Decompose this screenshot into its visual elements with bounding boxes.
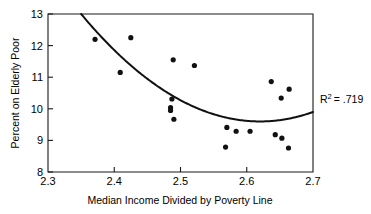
data-point — [169, 96, 174, 101]
x-tick-label: 2.4 — [107, 175, 122, 187]
data-point — [279, 95, 284, 100]
y-tick-label: 9 — [37, 134, 43, 146]
data-point — [118, 70, 123, 75]
data-point — [171, 57, 176, 62]
data-points — [92, 35, 291, 150]
svg-text:R2= .719: R2= .719 — [320, 92, 363, 105]
chart-figure: 8910111213 2.32.42.52.62.7 Percent on El… — [0, 0, 371, 214]
data-point — [92, 37, 97, 42]
y-tick-label: 10 — [31, 103, 43, 115]
data-point — [234, 129, 239, 134]
scatter-plot: 8910111213 2.32.42.52.62.7 Percent on El… — [0, 0, 371, 214]
data-point — [128, 35, 133, 40]
x-axis-title: Median Income Divided by Poverty Line — [87, 194, 272, 206]
y-tick-label: 12 — [31, 40, 43, 52]
y-axis-tick-labels: 8910111213 — [31, 8, 43, 178]
y-axis-ticks — [48, 14, 53, 172]
y-tick-label: 11 — [32, 71, 43, 83]
x-tick-label: 2.7 — [305, 175, 320, 187]
y-axis-title: Percent on Elderly Poor — [9, 37, 21, 148]
data-point — [273, 132, 278, 137]
y-tick-label: 13 — [31, 8, 43, 20]
x-tick-label: 2.5 — [173, 175, 188, 187]
r-squared-superscript: 2 — [328, 92, 332, 101]
data-point — [287, 87, 292, 92]
data-point — [269, 79, 274, 84]
data-point — [223, 144, 228, 149]
r-squared-annotation: R2= .719 — [320, 92, 363, 105]
data-point — [247, 129, 252, 134]
x-axis-ticks — [114, 167, 247, 172]
plot-frame — [48, 14, 313, 172]
data-point — [192, 63, 197, 68]
r-squared-value: = .719 — [334, 93, 364, 105]
data-point — [168, 108, 173, 113]
data-point — [279, 136, 284, 141]
data-point — [224, 125, 229, 130]
data-point — [171, 117, 176, 122]
x-tick-label: 2.3 — [40, 175, 55, 187]
x-tick-label: 2.6 — [239, 175, 254, 187]
regression-curve — [81, 14, 313, 121]
data-point — [286, 145, 291, 150]
x-axis-tick-labels: 2.32.42.52.62.7 — [40, 175, 320, 187]
